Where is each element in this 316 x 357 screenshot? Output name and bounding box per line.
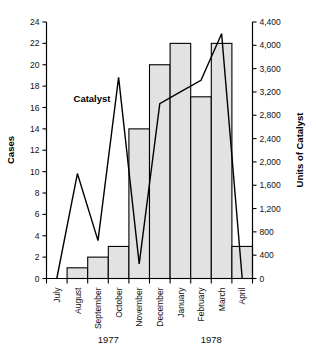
bar-october (108, 246, 129, 278)
x-label-april: April (237, 287, 247, 304)
right-tick-label-0: 0 (260, 274, 265, 284)
right-tick-label-4000: 4,000 (260, 40, 282, 50)
bar-september (88, 257, 109, 278)
x-label-july: July (52, 287, 62, 303)
catalyst-series-label: Catalyst (74, 93, 112, 104)
bar-august (67, 268, 88, 279)
bar-march (211, 43, 232, 278)
left-tick-label-24: 24 (30, 17, 40, 27)
left-tick-label-8: 8 (35, 188, 40, 198)
bar-february (191, 97, 212, 279)
left-axis-title: Cases (5, 136, 16, 164)
right-tick-label-3200: 3,200 (260, 87, 282, 97)
left-tick-label-6: 6 (35, 209, 40, 219)
left-tick-label-4: 4 (35, 231, 40, 241)
left-tick-label-20: 20 (30, 60, 40, 70)
year-label-1978: 1978 (201, 334, 222, 345)
left-tick-label-10: 10 (30, 167, 40, 177)
left-tick-label-14: 14 (30, 124, 40, 134)
bar-january (170, 43, 191, 278)
x-label-december: December (155, 287, 165, 326)
x-label-august: August (73, 287, 83, 314)
right-tick-label-2400: 2,400 (260, 134, 282, 144)
left-tick-label-12: 12 (30, 145, 40, 155)
right-tick-label-1600: 1,600 (260, 180, 282, 190)
left-tick-label-18: 18 (30, 81, 40, 91)
left-tick-label-16: 16 (30, 103, 40, 113)
left-tick-label-0: 0 (35, 274, 40, 284)
bar-december (150, 65, 171, 279)
right-tick-label-2000: 2,000 (260, 157, 282, 167)
right-tick-label-2800: 2,800 (260, 110, 282, 120)
left-tick-label-22: 22 (30, 38, 40, 48)
right-tick-label-1200: 1,200 (260, 204, 282, 214)
chart-figure: 024681012141618202224 Cases 04008001,200… (0, 0, 316, 357)
x-label-september: September (93, 287, 103, 329)
right-axis-title: Units of Catalyst (294, 112, 305, 188)
x-label-march: March (217, 287, 227, 311)
x-label-february: February (196, 287, 206, 322)
left-tick-label-2: 2 (35, 252, 40, 262)
x-label-october: October (114, 287, 124, 317)
right-tick-label-800: 800 (260, 227, 274, 237)
right-tick-label-4400: 4,400 (260, 17, 282, 27)
right-tick-label-400: 400 (260, 250, 274, 260)
x-label-november: November (134, 287, 144, 326)
right-tick-label-3600: 3,600 (260, 64, 282, 74)
combo-chart-plot: 024681012141618202224 Cases 04008001,200… (0, 0, 316, 357)
year-label-1977: 1977 (98, 334, 119, 345)
x-label-january: January (176, 287, 186, 318)
